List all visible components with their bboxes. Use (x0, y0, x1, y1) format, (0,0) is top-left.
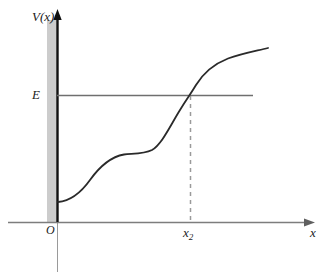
turning-point-label-subscript: 2 (189, 232, 194, 242)
potential-energy-curve (58, 48, 268, 202)
turning-point-label: x2 (183, 226, 193, 242)
shaded-barrier-region (47, 20, 57, 222)
origin-label: O (46, 224, 55, 236)
energy-level-label: E (32, 88, 40, 101)
y-axis-label: V(x) (32, 10, 54, 23)
y-axis-arrowhead (53, 9, 61, 20)
potential-energy-diagram: V(x) E O x2 x (0, 0, 333, 276)
x-axis-label: x (310, 226, 316, 239)
